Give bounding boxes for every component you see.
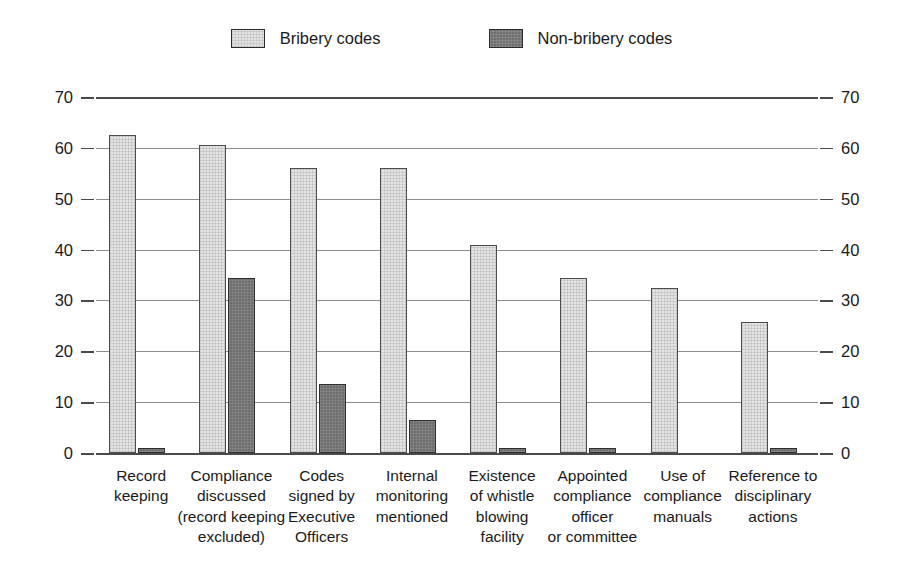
y-axis-left-label-10: 10 [33, 394, 73, 411]
y-axis-left-label-30: 30 [33, 292, 73, 309]
bar-group-compliance-discussed-record-keeping-excluded [199, 97, 255, 453]
bar-non-bribery-codes-internal-monitoring-mentioned [409, 420, 436, 453]
y-tick-right-20 [820, 351, 833, 353]
y-axis-left-label-0: 0 [33, 445, 73, 462]
y-tick-left-60 [81, 148, 94, 150]
y-tick-right-30 [820, 300, 833, 302]
y-axis-left-label-60: 60 [33, 140, 73, 157]
x-axis-label-reference-to-disciplinary-actions: Reference to disciplinary actions [716, 466, 830, 527]
y-tick-right-70 [820, 97, 833, 99]
y-axis-right-label-0: 0 [841, 445, 881, 462]
bar-group-use-of-compliance-manuals [651, 97, 707, 453]
y-axis-right-label-60: 60 [841, 140, 881, 157]
y-tick-left-20 [81, 351, 94, 353]
y-axis-left-label-20: 20 [33, 343, 73, 360]
y-axis-left-label-70: 70 [33, 89, 73, 106]
legend-label-bribery-codes: Bribery codes [280, 29, 381, 48]
y-tick-right-10 [820, 402, 833, 404]
bar-bribery-codes-compliance-discussed-record-keeping-excluded [199, 145, 226, 453]
bar-group-codes-signed-by-executive-officers [290, 97, 346, 453]
y-tick-left-70 [81, 97, 94, 99]
y-tick-left-50 [81, 199, 94, 201]
y-axis-right-label-50: 50 [841, 191, 881, 208]
bar-group-internal-monitoring-mentioned [380, 97, 436, 453]
bar-bribery-codes-record-keeping [109, 135, 136, 453]
bar-series-container [96, 97, 818, 453]
bar-non-bribery-codes-reference-to-disciplinary-actions [770, 448, 797, 453]
y-axis-right-label-20: 20 [841, 343, 881, 360]
gridline-0 [96, 453, 818, 455]
bar-non-bribery-codes-existence-of-whistle-blowing-facility [499, 448, 526, 453]
legend-swatch-icon-non-bribery-codes [489, 29, 523, 48]
bar-non-bribery-codes-appointed-compliance-officer-or-committee [589, 448, 616, 453]
bar-non-bribery-codes-record-keeping [138, 448, 165, 453]
bar-non-bribery-codes-compliance-discussed-record-keeping-excluded [228, 278, 255, 453]
y-tick-right-40 [820, 250, 833, 252]
y-axis-left-label-40: 40 [33, 242, 73, 259]
y-axis-right-label-30: 30 [841, 292, 881, 309]
bar-group-record-keeping [109, 97, 165, 453]
legend-item-bribery-codes: Bribery codes [231, 29, 381, 48]
y-axis-left-label-50: 50 [33, 191, 73, 208]
bar-bribery-codes-use-of-compliance-manuals [651, 288, 678, 453]
bar-bribery-codes-codes-signed-by-executive-officers [290, 168, 317, 453]
y-tick-right-50 [820, 199, 833, 201]
chart-legend: Bribery codes Non-bribery codes [0, 18, 903, 58]
x-axis-category-labels: Record keepingCompliance discussed (reco… [96, 466, 818, 561]
y-tick-left-10 [81, 402, 94, 404]
bar-non-bribery-codes-codes-signed-by-executive-officers [319, 384, 346, 453]
bar-group-reference-to-disciplinary-actions [741, 97, 797, 453]
legend-label-non-bribery-codes: Non-bribery codes [538, 29, 673, 48]
y-tick-left-30 [81, 300, 94, 302]
bar-bribery-codes-appointed-compliance-officer-or-committee [560, 278, 587, 453]
y-tick-right-0 [820, 453, 833, 455]
y-axis-right-label-40: 40 [841, 242, 881, 259]
y-axis-right-label-10: 10 [841, 394, 881, 411]
y-tick-left-40 [81, 250, 94, 252]
bar-group-existence-of-whistle-blowing-facility [470, 97, 526, 453]
y-tick-left-0 [81, 453, 94, 455]
bar-group-appointed-compliance-officer-or-committee [560, 97, 616, 453]
y-tick-right-60 [820, 148, 833, 150]
bar-bribery-codes-existence-of-whistle-blowing-facility [470, 245, 497, 454]
bar-bribery-codes-reference-to-disciplinary-actions [741, 322, 768, 453]
legend-item-non-bribery-codes: Non-bribery codes [489, 29, 673, 48]
y-axis-right-label-70: 70 [841, 89, 881, 106]
legend-swatch-icon-bribery-codes [231, 29, 265, 48]
plot-area [96, 97, 818, 453]
bar-bribery-codes-internal-monitoring-mentioned [380, 168, 407, 453]
